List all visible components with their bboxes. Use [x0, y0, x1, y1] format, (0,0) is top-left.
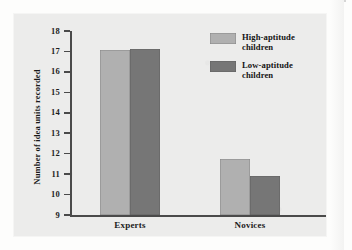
y-tick-label-18: 18: [38, 27, 60, 36]
legend-label-high-aptitude: High-aptitude children: [242, 32, 326, 53]
y-tick-label-16: 16: [38, 67, 60, 76]
y-tick-label-12: 12: [38, 149, 60, 158]
bar-novices-high-aptitude: [220, 159, 250, 215]
x-category-label-novices: Novices: [210, 220, 290, 230]
x-category-label-experts: Experts: [90, 220, 170, 230]
y-tick-13: [64, 132, 70, 134]
scan-edge-shading: [330, 0, 344, 250]
y-tick-label-11: 11: [38, 170, 60, 179]
scan-dotted-rule: [344, 0, 346, 250]
y-tick-label-15: 15: [38, 88, 60, 97]
y-tick-9: [64, 214, 70, 216]
y-tick-15: [64, 92, 70, 94]
y-tick-14: [64, 112, 70, 114]
figure-panel: Number of idea units recorded 1817161514…: [14, 14, 326, 236]
legend-item-low-aptitude: Low-aptitude children: [210, 60, 326, 81]
y-tick-11: [64, 173, 70, 175]
legend: High-aptitude children Low-aptitude chil…: [210, 32, 326, 88]
x-axis-line: [70, 215, 326, 217]
bar-experts-low-aptitude: [130, 49, 160, 215]
y-tick-12: [64, 153, 70, 155]
legend-swatch-high-aptitude: [210, 33, 236, 44]
y-tick-label-9: 9: [38, 211, 60, 220]
chart-screenshot: Number of idea units recorded 1817161514…: [0, 0, 352, 250]
y-tick-label-13: 13: [38, 129, 60, 138]
y-tick-18: [64, 30, 70, 32]
y-tick-label-10: 10: [38, 190, 60, 199]
bar-novices-low-aptitude: [250, 176, 280, 215]
legend-label-low-aptitude: Low-aptitude children: [242, 60, 326, 81]
y-tick-17: [64, 51, 70, 53]
bar-experts-high-aptitude: [100, 50, 130, 215]
y-axis-line: [70, 31, 72, 216]
legend-item-high-aptitude: High-aptitude children: [210, 32, 326, 53]
y-tick-10: [64, 194, 70, 196]
y-tick-label-17: 17: [38, 47, 60, 56]
legend-swatch-low-aptitude: [210, 61, 236, 72]
y-tick-16: [64, 71, 70, 73]
y-tick-label-14: 14: [38, 108, 60, 117]
